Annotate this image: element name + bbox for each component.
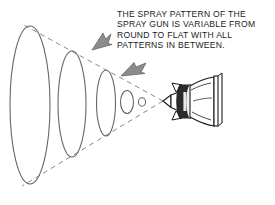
- cone-guide-lower: [22, 101, 163, 186]
- arrow-upper-shape: [92, 33, 112, 50]
- gun-body: [190, 77, 214, 126]
- pattern-largest: [10, 26, 50, 184]
- pattern-large: [58, 51, 86, 157]
- caption-line-4: PATTERNS IN BETWEEN.: [117, 40, 269, 50]
- pattern-round: [138, 98, 145, 106]
- pattern-medium: [97, 70, 116, 136]
- gun-nozzle-tip: [163, 95, 171, 108]
- arrow-lower-shape: [121, 63, 146, 77]
- spray-gun: [163, 73, 222, 126]
- arrow-lower-icon: [121, 63, 146, 77]
- gun-rear-flange: [214, 76, 218, 126]
- gun-flange-edge-top: [218, 73, 222, 76]
- spray-pattern-diagram: THE SPRAY PATTERN OF THE SPRAY GUN IS VA…: [0, 0, 275, 205]
- pattern-small: [121, 91, 134, 114]
- gun-flange-edge-bottom: [218, 123, 222, 126]
- gun-collar-highlight: [183, 92, 186, 111]
- caption-line-2: SPRAY GUN IS VARIABLE FROM: [117, 19, 269, 29]
- caption-block: THE SPRAY PATTERN OF THE SPRAY GUN IS VA…: [117, 9, 269, 51]
- arrow-upper-icon: [92, 33, 112, 50]
- caption-line-3: ROUND TO FLAT WITH ALL: [117, 30, 269, 40]
- caption-line-1: THE SPRAY PATTERN OF THE: [117, 9, 269, 19]
